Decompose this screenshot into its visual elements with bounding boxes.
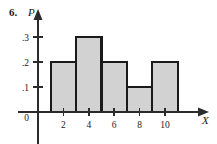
y-tick-label: .2 xyxy=(22,58,29,68)
histogram-bar xyxy=(51,62,76,112)
histogram-bar xyxy=(102,62,127,112)
x-tick-label: 8 xyxy=(137,120,142,130)
histogram-bar xyxy=(152,62,177,112)
x-axis-arrowhead xyxy=(198,108,209,117)
origin-label: 0 xyxy=(24,113,29,123)
x-tick-label: 10 xyxy=(160,120,170,130)
x-tick-label: 2 xyxy=(61,120,66,130)
x-tick-label: 4 xyxy=(86,120,91,130)
x-tick-label: 6 xyxy=(112,120,117,130)
figure-container: 6. P X .1.2.32468100 xyxy=(0,0,217,144)
y-tick-label: .3 xyxy=(22,33,29,43)
y-tick-label: .1 xyxy=(22,83,29,93)
y-axis-arrowhead xyxy=(34,9,43,20)
bars-group xyxy=(51,37,178,112)
histogram-plot: .1.2.32468100 xyxy=(0,0,217,144)
histogram-bar xyxy=(76,37,101,112)
